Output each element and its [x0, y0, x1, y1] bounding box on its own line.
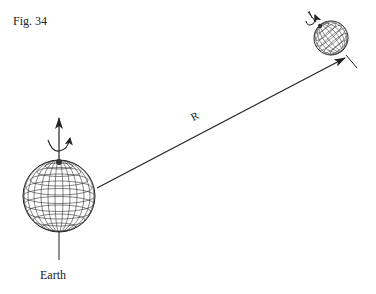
- distant-body-globe: [307, 14, 355, 62]
- earth-label: Earth: [40, 268, 66, 283]
- distant-body-rotation-arrow-icon: [306, 11, 316, 25]
- diagram-canvas: [0, 0, 376, 294]
- figure: Fig. 34: [0, 0, 376, 294]
- earth-globe: [23, 159, 95, 232]
- distance-vector-r: [97, 58, 345, 188]
